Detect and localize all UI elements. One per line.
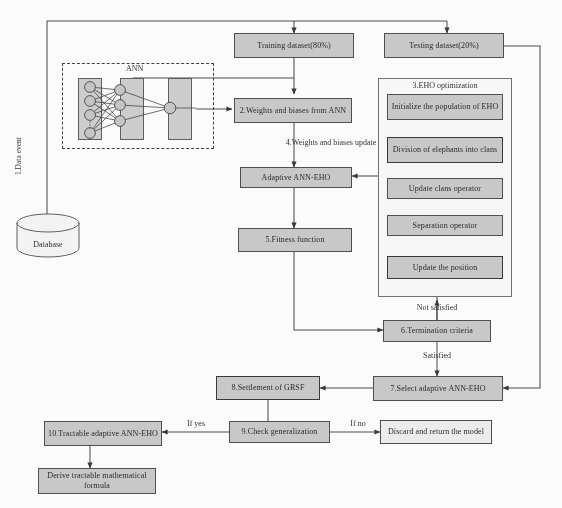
- node-training-dataset[interactable]: Training dataset(80%): [234, 33, 354, 58]
- wire-fitness-to-termination: [294, 252, 383, 330]
- node-termination-criteria[interactable]: 6.Termination criteria: [383, 320, 491, 342]
- eho-step-update-clans-operator[interactable]: Update clans operator: [387, 178, 503, 199]
- node-discard-return-model[interactable]: Discard and return the model: [380, 420, 492, 444]
- node-select-adaptive-ann-eho[interactable]: 7.Select adaptive ANN-EHO: [373, 376, 503, 401]
- node-settlement-of-grsf[interactable]: 8.Settlement of GRSF: [216, 376, 320, 400]
- node-check-generalization[interactable]: 9.Check generalization: [229, 421, 330, 443]
- edge-label-if-yes: If yes: [167, 419, 225, 428]
- node-tractable-adaptive-ann-eho[interactable]: 10.Tractable adaptive ANN-EHO: [44, 421, 162, 446]
- node-fitness-function[interactable]: 5.Fitness function: [238, 228, 352, 252]
- ann-network-graph: [62, 63, 214, 149]
- eho-panel-title: 3.EHO optimization: [378, 81, 512, 90]
- flowchart-canvas: 1.Data event Database ANN: [0, 0, 562, 508]
- eho-step-division-into-clans[interactable]: Division of elephants into clans: [387, 137, 503, 163]
- edge-label-satisfied: Satisfied: [392, 351, 482, 360]
- eho-step-separation-operator[interactable]: Separation operator: [387, 215, 503, 236]
- node-weights-biases-from-ann[interactable]: 2.Weights and biases from ANN: [234, 98, 352, 123]
- edge-label-if-no: If no: [334, 419, 382, 428]
- edge-label-not-satisfied: Not satisfied: [392, 303, 482, 312]
- node-testing-dataset[interactable]: Testing dataset(20%): [384, 33, 504, 58]
- node-adaptive-ann-eho[interactable]: Adaptive ANN-EHO: [240, 167, 352, 188]
- eho-step-initialize-population[interactable]: Initialize the population of EHO: [387, 94, 503, 120]
- edge-label-weights-biases-update: 4.Weights and biases update: [276, 138, 386, 147]
- data-event-label: 1.Data event: [14, 137, 23, 175]
- node-derive-formula[interactable]: Derive tractable mathematical formula: [38, 468, 156, 494]
- eho-step-update-position[interactable]: Update the position: [387, 256, 503, 279]
- database-cylinder: Database: [14, 212, 82, 260]
- database-label: Database: [14, 240, 82, 249]
